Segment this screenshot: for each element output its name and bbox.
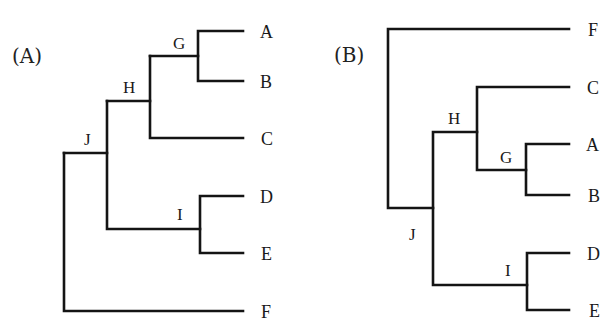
node-label-g: G xyxy=(173,34,185,53)
branch-i-split xyxy=(527,253,569,310)
panel-label-b: (B) xyxy=(334,43,364,67)
branch-i-split xyxy=(200,196,243,253)
branch-h-split xyxy=(477,87,569,170)
leaf-label-a: A xyxy=(586,135,600,155)
branch-root-to-f xyxy=(64,153,243,311)
tree-b: (B) F C A B D E H G J I xyxy=(334,20,601,321)
leaf-label-c: C xyxy=(261,129,274,149)
leaf-label-d: D xyxy=(587,244,601,264)
leaf-label-f: F xyxy=(588,20,599,40)
phylogenetic-trees-figure: (A) A B C D E F G H J I (B) xyxy=(0,0,616,327)
leaf-label-e: E xyxy=(261,244,273,264)
node-label-j: J xyxy=(409,225,416,244)
branch-h-split xyxy=(150,56,243,138)
leaf-label-b: B xyxy=(588,186,601,206)
leaf-label-a: A xyxy=(260,22,274,42)
node-label-i: I xyxy=(177,205,183,224)
panel-label-a: (A) xyxy=(12,44,42,68)
branch-g-split xyxy=(526,144,569,195)
node-label-g: G xyxy=(500,148,512,167)
leaf-label-c: C xyxy=(587,78,600,98)
leaf-label-f: F xyxy=(261,302,272,322)
tree-a: (A) A B C D E F G H J I xyxy=(12,22,274,322)
branch-j-split xyxy=(433,132,527,285)
branch-root xyxy=(388,29,569,208)
branch-g-split xyxy=(198,31,243,81)
node-label-h: H xyxy=(448,109,460,128)
node-label-j: J xyxy=(84,130,91,149)
leaf-label-e: E xyxy=(589,301,601,321)
branch-j-split xyxy=(107,101,200,229)
leaf-label-d: D xyxy=(260,187,274,207)
node-label-i: I xyxy=(505,261,511,280)
leaf-label-b: B xyxy=(260,72,273,92)
node-label-h: H xyxy=(123,78,135,97)
